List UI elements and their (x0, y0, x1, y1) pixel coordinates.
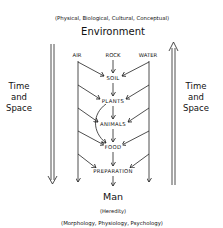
man-title: Man (103, 191, 123, 202)
node-plants: PLANTS (101, 98, 125, 104)
environment-title: Environment (81, 26, 145, 37)
node-food: FOOD (104, 144, 123, 150)
heredity-subtitle: (Heredity) (100, 208, 126, 214)
source-rock: ROCK (105, 52, 120, 58)
right-time-arrow (169, 42, 178, 185)
left-time-arrow (48, 44, 57, 184)
right-axis-label: Time and Space (183, 81, 209, 114)
source-water: WATER (139, 52, 157, 58)
left-axis-label: Time and Space (6, 81, 32, 114)
environment-caption: (Physical, Biological, Cultural, Concept… (55, 15, 169, 21)
node-preparation: PREPARATION (92, 168, 134, 174)
node-soil: SOIL (105, 75, 120, 81)
node-animals: ANIMALS (99, 121, 127, 127)
man-caption: (Morphology, Physiology, Psychology) (61, 220, 163, 226)
source-air: AIR (73, 52, 82, 58)
